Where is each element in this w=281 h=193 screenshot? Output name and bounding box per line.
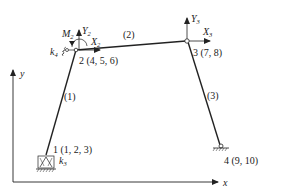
element-label-1: (1) [64,91,76,103]
node-2-label: 2 (4, 5, 6) [79,55,118,67]
node-1-label: 1 (1, 2, 3) [53,144,92,156]
node-2-joint [74,48,78,52]
global-axes: y x [13,68,228,188]
structural-frame-diagram: y x (1) (2) (3) k3 1 (1, 2, 3) k4 Y2 X2 [0,0,281,193]
moment-m2-arrowhead [69,41,75,46]
node-4-label: 4 (9, 10) [224,155,258,167]
element-label-3: (3) [207,90,219,102]
force-x2-label: X2 [90,36,101,48]
x-axis-label: x [222,177,228,188]
node-4-support [213,144,229,151]
node-1-support: k3 [36,155,67,172]
node-3: Y3 X3 [185,13,213,43]
y-axis-label: y [19,68,25,79]
spring-k4-label: k4 [50,46,58,58]
hinge-icon [185,39,189,43]
node-3-label: 3 (7, 8) [193,47,222,59]
member-1 [46,50,76,155]
element-label-2: (2) [123,29,135,41]
force-y3-label: Y3 [191,13,201,25]
spring-k3-label: k3 [59,155,67,167]
pin-icon [219,144,223,148]
force-x3-label: X3 [202,26,213,38]
moment-m2-arc [72,39,87,47]
moment-m2-label: M2 [61,28,74,40]
